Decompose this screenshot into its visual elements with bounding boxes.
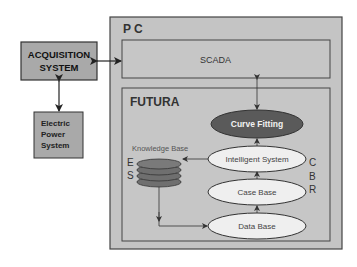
database-stack-icon xyxy=(137,159,181,187)
es-s: S xyxy=(127,170,134,181)
futura-title: FUTURA xyxy=(130,95,180,109)
acquisition-line1: ACQUISITION xyxy=(28,49,90,60)
case-base-label: Case Base xyxy=(237,188,277,197)
electric-line2: Power xyxy=(41,130,65,139)
cbr-r: R xyxy=(309,184,316,195)
knowledge-base-label: Knowledge Base xyxy=(132,144,188,153)
pc-title: P C xyxy=(123,22,143,36)
cbr-c: C xyxy=(309,157,316,168)
architecture-diagram: P C SCADA FUTURA ACQUISITION SYSTEM Elec… xyxy=(0,0,357,267)
es-e: E xyxy=(127,157,134,168)
intelligent-system-label: Intelligent System xyxy=(225,155,288,164)
electric-line1: Electric xyxy=(41,119,70,128)
acquisition-system-box xyxy=(21,42,97,80)
cbr-b: B xyxy=(309,171,316,182)
acquisition-line2: SYSTEM xyxy=(39,62,78,73)
electric-line3: System xyxy=(41,141,69,150)
data-base-label: Data Base xyxy=(238,222,276,231)
scada-label: SCADA xyxy=(200,55,231,65)
curve-fitting-label: Curve Fitting xyxy=(231,119,283,129)
